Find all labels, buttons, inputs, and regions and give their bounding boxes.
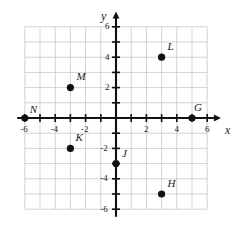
point-label-H: H [168,178,176,189]
y-tick-label-neg4: -4 [100,174,108,183]
x-tick-label-6: 6 [205,125,210,134]
y-axis-label: y [101,10,106,22]
data-point-M [67,84,74,91]
y-tick-label-6: 6 [105,22,110,31]
point-label-J: J [122,148,127,159]
x-tick-label-2: 2 [144,125,149,134]
point-label-N: N [30,104,37,115]
data-points [21,54,195,198]
y-tick-label-neg2: -2 [100,144,108,153]
y-tick-label-2: 2 [105,83,110,92]
point-label-M: M [76,71,85,82]
point-label-L: L [168,41,174,52]
data-point-N [21,114,28,121]
data-point-L [158,54,165,61]
coordinate-plane-figure: -6-4-2246642-2-4-6xyNMKJLHG [0,0,238,229]
point-label-K: K [75,132,82,143]
x-tick-label-neg6: -6 [20,125,28,134]
data-point-G [188,114,195,121]
x-tick-label-neg4: -4 [51,125,59,134]
y-tick-label-4: 4 [105,53,110,62]
data-point-K [67,145,74,152]
data-point-H [158,190,165,197]
x-axis-label: x [225,124,230,136]
point-label-G: G [194,102,202,113]
x-tick-label-4: 4 [175,125,180,134]
y-tick-label-neg6: -6 [100,205,108,214]
data-point-J [112,160,119,167]
